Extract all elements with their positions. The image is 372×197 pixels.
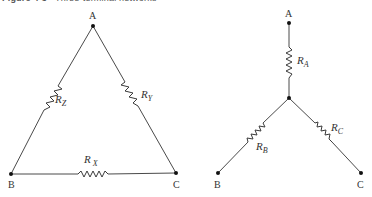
circuit-diagram: A B C RZ RY RX A B C R bbox=[0, 0, 372, 197]
label-rb: RB bbox=[255, 140, 268, 155]
label-ry: RY bbox=[140, 88, 154, 103]
delta-node-c bbox=[174, 171, 178, 175]
delta-node-b bbox=[9, 172, 13, 176]
delta-label-c: C bbox=[173, 179, 180, 190]
resistor-ra bbox=[286, 23, 292, 98]
wye-label-c: C bbox=[357, 179, 364, 190]
delta-label-b: B bbox=[8, 179, 15, 190]
wye-network: A B C RA RB RC bbox=[214, 8, 364, 190]
wye-node-a bbox=[287, 21, 291, 25]
delta-network: A B C RZ RY RX bbox=[8, 10, 180, 190]
wye-center-node bbox=[287, 96, 291, 100]
label-rx: RX bbox=[83, 153, 99, 168]
resistor-ry bbox=[93, 26, 176, 173]
label-ra: RA bbox=[296, 54, 309, 69]
resistor-rz bbox=[11, 26, 93, 174]
resistor-rb bbox=[218, 98, 289, 173]
resistor-rx bbox=[11, 171, 176, 177]
delta-label-a: A bbox=[89, 10, 97, 21]
label-rc: RC bbox=[330, 121, 344, 136]
delta-node-a bbox=[91, 24, 95, 28]
label-rz: RZ bbox=[54, 93, 67, 108]
wye-node-b bbox=[216, 171, 220, 175]
wye-label-a: A bbox=[285, 8, 293, 19]
wye-node-c bbox=[359, 171, 363, 175]
wye-label-b: B bbox=[214, 179, 221, 190]
resistor-rc bbox=[289, 98, 361, 173]
